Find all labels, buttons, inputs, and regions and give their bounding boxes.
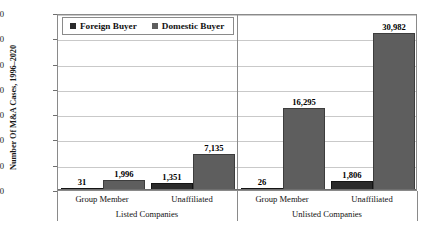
bars-container: 311,9961,3517,1352616,2951,80630,982 — [58, 15, 416, 190]
bar-group-unlisted-group-member: 2616,295 — [238, 15, 328, 190]
x-axis-separator-1 — [237, 191, 238, 221]
legend-item-foreign-buyer[interactable]: Foreign Buyer — [70, 21, 137, 31]
bar-value-label: 26 — [258, 177, 267, 187]
bar-group-unlisted-unaffiliated: 1,80630,982 — [328, 15, 418, 190]
bar-value-label: 7,135 — [204, 143, 223, 153]
bar-listed-unaffiliated-domestic[interactable]: 7,135 — [193, 154, 235, 190]
x-axis-separator-2 — [417, 191, 418, 221]
x-axis-group-label-listed: Listed Companies — [57, 209, 237, 219]
y-axis-tick-30000: 30,000 — [0, 34, 4, 44]
bar-value-label: 1,351 — [162, 172, 181, 182]
bar-unlisted-group-member-domestic[interactable]: 16,295 — [283, 108, 325, 190]
y-axis-tick-0: 0 — [0, 186, 4, 196]
legend-label-foreign-buyer: Foreign Buyer — [80, 21, 137, 31]
x-axis-sublabel-unlisted-unaffiliated: Unaffiliated — [327, 194, 417, 204]
x-axis-group-label-unlisted: Unlisted Companies — [237, 209, 417, 219]
bar-chart: Number Of M&A Cases, 1996–2020 05,00010,… — [0, 0, 426, 236]
legend-label-domestic-buyer: Domestic Buyer — [162, 21, 225, 31]
x-axis-separator-0 — [57, 191, 58, 221]
x-axis-sublabel-unlisted-group-member: Group Member — [237, 194, 327, 204]
foreign-buyer-swatch-icon — [70, 23, 76, 29]
plot-area: 311,9961,3517,1352616,2951,80630,982 — [57, 14, 417, 191]
legend-item-domestic-buyer[interactable]: Domestic Buyer — [152, 21, 225, 31]
y-axis-title: Number Of M&A Cases, 1996–2020 — [9, 12, 18, 204]
bar-value-label: 1,996 — [114, 169, 133, 179]
bar-unlisted-unaffiliated-domestic[interactable]: 30,982 — [373, 33, 415, 190]
bar-value-label: 1,806 — [342, 170, 361, 180]
legend: Foreign Buyer Domestic Buyer — [62, 17, 234, 35]
bar-value-label: 31 — [78, 177, 87, 187]
y-axis-tick-15000: 15,000 — [0, 110, 4, 120]
bar-group-listed-unaffiliated: 1,3517,135 — [148, 15, 238, 190]
bar-value-label: 16,295 — [292, 97, 316, 107]
y-axis-tick-25000: 25,000 — [0, 60, 4, 70]
y-axis-tick-20000: 20,000 — [0, 85, 4, 95]
y-axis-tick-10000: 10,000 — [0, 135, 4, 145]
axis-baseline — [58, 189, 416, 190]
bar-group-listed-group-member: 311,996 — [58, 15, 148, 190]
y-axis-tick-35000: 35,000 — [0, 9, 4, 19]
x-axis-sublabel-listed-unaffiliated: Unaffiliated — [147, 194, 237, 204]
domestic-buyer-swatch-icon — [152, 23, 158, 29]
y-axis-tick-5000: 5,000 — [0, 161, 4, 171]
bar-value-label: 30,982 — [382, 22, 406, 32]
x-axis-sublabel-listed-group-member: Group Member — [57, 194, 147, 204]
